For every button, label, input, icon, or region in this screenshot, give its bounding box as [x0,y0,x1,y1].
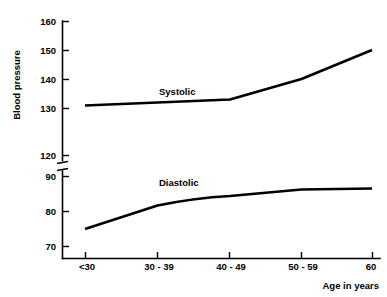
axis-break-mark-lower [57,169,68,171]
x-tick-label-4: 60 [366,261,377,272]
y-tick-label-70: 70 [45,241,56,252]
x-tick-label-0: <30 [79,261,95,272]
diastolic-line [85,189,372,230]
x-tick-label-1: 30 - 39 [144,261,174,272]
x-tick-label-3: 50 - 59 [288,261,318,272]
x-axis-title: Age in years [323,280,380,291]
diastolic-series-label: Diastolic [159,177,199,188]
blood-pressure-chart: 160 150 140 130 120 90 80 70 <30 30 - 39… [0,0,387,297]
y-tick-label-90: 90 [45,171,56,182]
y-tick-label-140: 140 [40,74,56,85]
y-tick-label-120: 120 [40,150,56,161]
y-tick-label-80: 80 [45,206,56,217]
y-tick-label-160: 160 [40,16,56,27]
y-tick-label-130: 130 [40,103,56,114]
x-tick-label-2: 40 - 49 [216,261,246,272]
y-tick-label-150: 150 [40,45,56,56]
axis-break-mark-upper [57,162,68,164]
systolic-series-label: Systolic [159,86,195,97]
y-axis-title: Blood pressure [11,50,22,120]
chart-canvas: 160 150 140 130 120 90 80 70 <30 30 - 39… [0,0,387,297]
systolic-line [85,50,372,106]
